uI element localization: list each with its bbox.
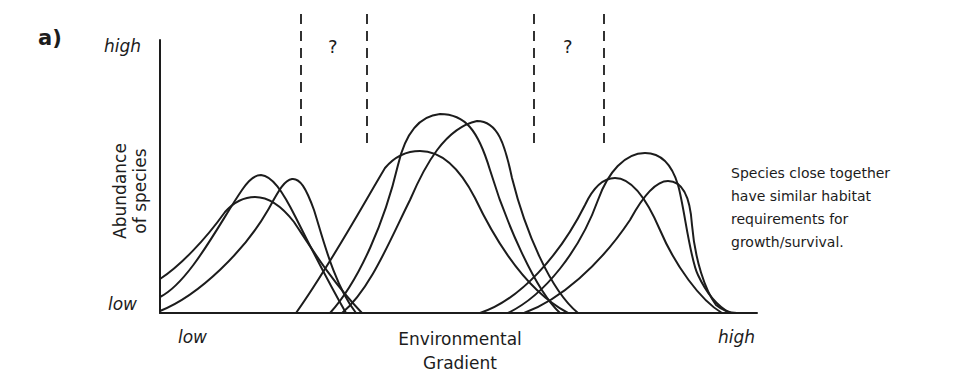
species-curve-3c (524, 181, 737, 313)
gap-question-mark-2: ? (563, 36, 573, 57)
x-axis-high-label: high (718, 327, 755, 347)
x-axis-title-line2: Gradient (370, 351, 550, 375)
species-curve-1a (160, 175, 346, 313)
species-group-1 (160, 175, 362, 313)
species-curve-2a (330, 114, 560, 313)
x-axis-low-label: low (178, 327, 207, 347)
y-axis-title-line2: of species (130, 143, 150, 239)
species-curve-3b (480, 178, 722, 313)
annotation-line-4: growth/survival. (731, 231, 951, 254)
annotation-line-3: requirements for (731, 208, 951, 231)
y-axis-title: Abundance of species (100, 106, 160, 276)
species-niche-diagram: a) high low Abundance of species low hig… (0, 0, 962, 392)
y-axis-title-line1: Abundance (110, 143, 130, 239)
annotation-line-1: Species close together (731, 162, 951, 185)
species-group-3 (480, 153, 737, 313)
annotation-note: Species close together have similar habi… (731, 162, 951, 254)
species-curve-1c (160, 197, 362, 313)
annotation-line-2: have similar habitat (731, 185, 951, 208)
species-curve-1b (160, 179, 356, 313)
species-curve-2c (296, 151, 568, 313)
species-curve-2b (342, 121, 578, 313)
gap-question-mark-1: ? (328, 36, 338, 57)
x-axis-title-line1: Environmental (370, 327, 550, 351)
x-axis-title: Environmental Gradient (370, 327, 550, 375)
gap-dashed-lines (301, 14, 604, 148)
y-axis-high-label: high (104, 36, 141, 56)
axes (160, 40, 757, 313)
y-axis-low-label: low (108, 294, 137, 314)
panel-label: a) (38, 26, 62, 50)
